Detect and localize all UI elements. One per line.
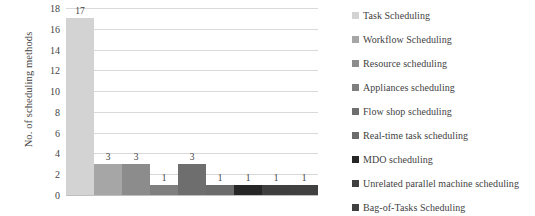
legend-item-label: Bag-of-Tasks Scheduling — [363, 202, 465, 213]
legend-swatch-icon — [352, 60, 359, 67]
y-tick-label: 14 — [28, 44, 60, 55]
legend-swatch-icon — [352, 180, 359, 187]
bar[interactable] — [178, 164, 206, 195]
plot-area: 1733131111 — [66, 8, 318, 196]
bar[interactable] — [262, 185, 290, 195]
legend-swatch-icon — [352, 84, 359, 91]
bar-value-label: 1 — [290, 173, 318, 183]
y-tick-label: 10 — [28, 86, 60, 97]
bar-slot[interactable]: 3 — [94, 8, 122, 195]
legend-item[interactable]: Flow shop scheduling — [352, 106, 452, 117]
legend-item-label: Real-time task scheduling — [363, 130, 468, 141]
legend-item[interactable]: Appliances scheduling — [352, 82, 455, 93]
bar-slot[interactable]: 3 — [122, 8, 150, 195]
bar-slot[interactable]: 1 — [150, 8, 178, 195]
bar-slot[interactable]: 17 — [66, 8, 94, 195]
y-tick-label: 16 — [28, 23, 60, 34]
bar-chart: No. of scheduling methods 18161412108642… — [0, 0, 340, 216]
bar-value-label: 1 — [206, 173, 234, 183]
legend-item-label: Task Scheduling — [363, 10, 430, 21]
bar-value-label: 1 — [150, 173, 178, 183]
bar[interactable] — [150, 185, 178, 195]
legend-swatch-icon — [352, 132, 359, 139]
legend-item[interactable]: Workflow Scheduling — [352, 34, 452, 45]
y-axis-tick-labels: 181614121086420 — [28, 8, 60, 196]
bar-value-label: 1 — [234, 173, 262, 183]
bar-value-label: 3 — [122, 152, 150, 162]
y-tick-label: 2 — [28, 169, 60, 180]
legend-item[interactable]: Resource scheduling — [352, 58, 447, 69]
legend-swatch-icon — [352, 204, 359, 211]
chart-screenshot: No. of scheduling methods 18161412108642… — [0, 0, 535, 216]
legend-item-label: Flow shop scheduling — [363, 106, 452, 117]
legend-item-label: Unrelated parallel machine scheduling — [363, 178, 519, 189]
bar-slot[interactable]: 1 — [206, 8, 234, 195]
y-tick-label: 0 — [28, 190, 60, 201]
legend-swatch-icon — [352, 12, 359, 19]
legend-item[interactable]: Task Scheduling — [352, 10, 430, 21]
x-axis-line — [66, 195, 318, 196]
bar-slot[interactable]: 1 — [290, 8, 318, 195]
bar-value-label: 3 — [94, 152, 122, 162]
y-tick-label: 18 — [28, 3, 60, 14]
bar-value-label: 1 — [262, 173, 290, 183]
legend-item-label: Appliances scheduling — [363, 82, 455, 93]
y-tick-label: 4 — [28, 148, 60, 159]
bar[interactable] — [206, 185, 234, 195]
bar-slot[interactable]: 1 — [234, 8, 262, 195]
bar[interactable] — [234, 185, 262, 195]
legend-swatch-icon — [352, 108, 359, 115]
chart-legend: Task SchedulingWorkflow SchedulingResour… — [348, 0, 535, 216]
bar-value-label: 17 — [66, 6, 94, 16]
bar[interactable] — [290, 185, 318, 195]
legend-item[interactable]: Unrelated parallel machine scheduling — [352, 178, 519, 189]
legend-item-label: Resource scheduling — [363, 58, 447, 69]
bar[interactable] — [122, 164, 150, 195]
legend-item[interactable]: MDO scheduling — [352, 154, 433, 165]
bar[interactable] — [66, 18, 94, 195]
legend-swatch-icon — [352, 36, 359, 43]
legend-item-label: Workflow Scheduling — [363, 34, 452, 45]
bar-value-label: 3 — [178, 152, 206, 162]
y-tick-label: 12 — [28, 65, 60, 76]
bar-series: 1733131111 — [66, 8, 318, 195]
bar-slot[interactable]: 1 — [262, 8, 290, 195]
legend-item[interactable]: Bag-of-Tasks Scheduling — [352, 202, 465, 213]
legend-item[interactable]: Real-time task scheduling — [352, 130, 468, 141]
legend-swatch-icon — [352, 156, 359, 163]
y-tick-label: 6 — [28, 127, 60, 138]
legend-item-label: MDO scheduling — [363, 154, 433, 165]
bar[interactable] — [94, 164, 122, 195]
y-tick-label: 8 — [28, 106, 60, 117]
bar-slot[interactable]: 3 — [178, 8, 206, 195]
